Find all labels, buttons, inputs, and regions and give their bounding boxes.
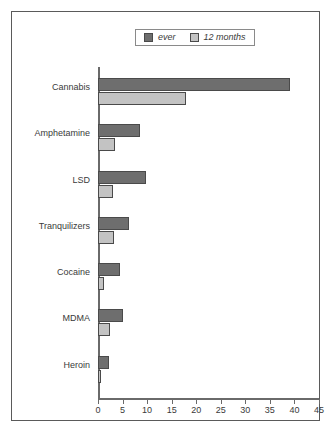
category-label-heroin: Heroin [63,361,90,370]
bar-group-heroin: Heroin [98,349,319,395]
x-tick-label-0: 0 [95,406,100,415]
category-label-amphetamine: Amphetamine [34,129,90,138]
x-tick-15 [172,399,173,404]
x-axis-ticks: 051015202530354045 [98,399,319,423]
category-label-mdma: MDMA [63,314,91,323]
x-tick-10 [147,399,148,404]
bar-tranquilizers-ever[interactable] [98,217,129,230]
bar-tranquilizers-12-months[interactable] [98,231,114,244]
legend-label-ever: ever [158,33,176,42]
category-label-cocaine: Cocaine [57,268,90,277]
chart-frame: ever 12 months Cannabis Amphetamine LSD [11,11,320,421]
bar-cannabis-ever[interactable] [98,78,290,91]
bar-mdma-12-months[interactable] [98,323,110,336]
bar-group-tranquilizers: Tranquilizers [98,210,319,256]
bar-lsd-12-months[interactable] [98,185,113,198]
x-tick-45 [319,399,320,404]
category-label-cannabis: Cannabis [52,83,90,92]
legend-item-ever[interactable]: ever [144,33,176,42]
bar-group-lsd: LSD [98,164,319,210]
x-tick-40 [294,399,295,404]
x-tick-0 [98,399,99,404]
bar-lsd-ever[interactable] [98,171,146,184]
x-tick-5 [123,399,124,404]
bar-amphetamine-12-months[interactable] [98,138,115,151]
plot-area: Cannabis Amphetamine LSD Tranquilizers [87,67,319,402]
x-tick-label-25: 25 [216,406,226,415]
bar-cocaine-12-months[interactable] [98,277,104,290]
bar-heroin-ever[interactable] [98,356,109,369]
x-tick-label-20: 20 [191,406,201,415]
legend-swatch-ever-icon [144,33,153,42]
x-tick-20 [196,399,197,404]
bar-amphetamine-ever[interactable] [98,124,140,137]
x-tick-label-35: 35 [265,406,275,415]
bar-group-cocaine: Cocaine [98,256,319,302]
x-tick-label-15: 15 [167,406,177,415]
category-label-lsd: LSD [72,176,90,185]
x-tick-label-10: 10 [142,406,152,415]
bar-groups: Cannabis Amphetamine LSD Tranquilizers [98,71,319,395]
legend-item-12-months[interactable]: 12 months [190,33,246,42]
legend-swatch-12-months-icon [190,33,199,42]
x-tick-label-40: 40 [289,406,299,415]
x-tick-30 [245,399,246,404]
bar-group-amphetamine: Amphetamine [98,117,319,163]
bar-group-cannabis: Cannabis [98,71,319,117]
category-label-tranquilizers: Tranquilizers [39,222,90,231]
bar-cannabis-12-months[interactable] [98,92,186,105]
bar-cocaine-ever[interactable] [98,263,120,276]
chart-legend: ever 12 months [135,29,255,46]
x-tick-25 [221,399,222,404]
x-tick-35 [270,399,271,404]
bar-mdma-ever[interactable] [98,309,123,322]
x-tick-label-45: 45 [314,406,324,415]
legend-label-12-months: 12 months [204,33,246,42]
x-tick-label-5: 5 [120,406,125,415]
bar-heroin-12-months[interactable] [98,370,101,383]
bar-group-mdma: MDMA [98,302,319,348]
x-tick-label-30: 30 [240,406,250,415]
